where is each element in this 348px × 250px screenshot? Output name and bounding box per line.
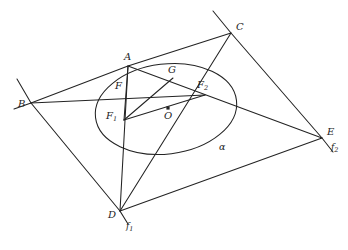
label-point-c: C bbox=[236, 22, 244, 32]
label-focus-f2-base: F bbox=[197, 79, 204, 90]
label-point-f: F bbox=[115, 81, 122, 91]
label-line-f2: f2 bbox=[331, 143, 338, 154]
label-focus-f1: F1 bbox=[106, 111, 117, 123]
label-focus-f2: F2 bbox=[197, 80, 208, 92]
label-point-g: G bbox=[168, 65, 176, 75]
label-focus-f2-subscript: 2 bbox=[204, 84, 208, 92]
label-point-a: A bbox=[124, 52, 131, 62]
side-b-a-c bbox=[31, 33, 231, 103]
diagonal-a-e bbox=[128, 66, 322, 138]
label-line-f2-subscript: 2 bbox=[334, 146, 338, 154]
geometry-diagram bbox=[0, 0, 348, 250]
label-focus-f1-subscript: 1 bbox=[113, 115, 117, 123]
label-point-e: E bbox=[327, 127, 334, 137]
side-c-e-line-f2 bbox=[213, 11, 333, 152]
label-conic-alpha: α bbox=[219, 142, 225, 152]
label-point-b: B bbox=[18, 99, 25, 109]
label-point-d: D bbox=[108, 210, 116, 220]
label-line-f1: f1 bbox=[126, 222, 133, 233]
side-b-d bbox=[17, 79, 120, 211]
figure-canvas: A B C D E F G O F1 F2 f1 f2 α bbox=[0, 0, 348, 250]
label-line-f1-subscript: 1 bbox=[129, 225, 133, 233]
cevian-b-f2 bbox=[31, 95, 205, 103]
diagonal-d-c bbox=[120, 33, 231, 211]
label-focus-f1-base: F bbox=[106, 110, 113, 121]
label-point-o: O bbox=[164, 111, 172, 121]
